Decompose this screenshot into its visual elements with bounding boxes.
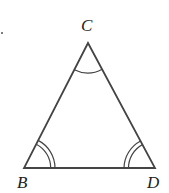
triangle-diagram: C B D	[0, 0, 169, 193]
angle-mark-c	[74, 69, 102, 73]
vertex-label-d: D	[146, 173, 160, 192]
angle-mark-b	[36, 140, 55, 168]
vertex-label-b: B	[17, 173, 28, 192]
angle-mark-d	[124, 141, 143, 168]
stray-dot	[1, 32, 3, 34]
vertex-label-c: C	[81, 16, 93, 35]
